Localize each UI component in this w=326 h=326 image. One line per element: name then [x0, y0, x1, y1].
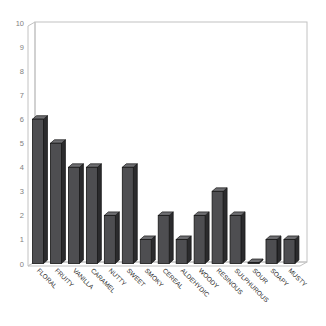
bar-sulphurous	[230, 212, 245, 264]
x-axis: FLORALFRUITYVANILLACARAMELNUTTYSWEETSMOK…	[36, 267, 309, 304]
y-tick-label: 0	[20, 260, 24, 269]
bar-soapy	[266, 236, 281, 264]
y-tick-label: 10	[16, 19, 24, 28]
y-axis: 012345678910	[16, 19, 24, 269]
bar-vanilla	[68, 164, 83, 264]
bar-fruity	[50, 140, 65, 264]
y-tick-label: 2	[20, 211, 24, 220]
x-category-label: SOAPY	[269, 267, 290, 288]
y-tick-label: 7	[20, 91, 24, 100]
bar-smoky	[140, 236, 155, 264]
bar-floral	[33, 116, 48, 264]
y-tick-label: 3	[20, 187, 24, 196]
bar-resinous	[212, 188, 227, 264]
y-tick-label: 9	[20, 43, 24, 52]
bars	[33, 116, 299, 264]
y-tick-label: 6	[20, 115, 24, 124]
bar-aldehydic	[176, 236, 191, 264]
y-tick-label: 1	[20, 235, 24, 244]
bar-chart-3d: 012345678910FLORALFRUITYVANILLACARAMELNU…	[0, 0, 326, 326]
x-category-label: SWEET	[126, 267, 147, 288]
y-tick-label: 5	[20, 139, 24, 148]
bar-nutty	[104, 212, 119, 264]
chart-image: 012345678910FLORALFRUITYVANILLACARAMELNU…	[0, 0, 326, 326]
bar-sweet	[122, 164, 137, 264]
bar-cereal	[158, 212, 173, 264]
bar-musty	[284, 236, 299, 264]
y-tick-label: 4	[20, 163, 24, 172]
y-tick-label: 8	[20, 67, 24, 76]
bar-woody	[194, 212, 209, 264]
bar-caramel	[86, 164, 101, 264]
x-category-label: MUSTY	[287, 267, 309, 289]
